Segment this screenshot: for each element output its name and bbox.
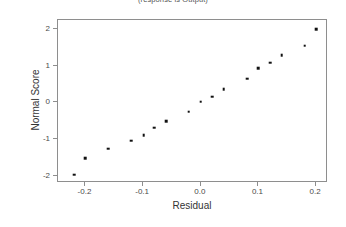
x-tick-mark (315, 182, 316, 186)
data-points-layer (58, 20, 326, 181)
normal-probability-plot: (response is Output) -0.2-0.10.00.10.2 -… (0, 0, 346, 227)
x-tick-label: 0.2 (310, 187, 321, 196)
x-tick-label: -0.2 (78, 187, 92, 196)
x-tick-mark (257, 182, 258, 186)
data-point (84, 157, 87, 160)
x-tick-mark (84, 182, 85, 186)
y-tick-mark (53, 175, 57, 176)
y-tick-mark (53, 65, 57, 66)
x-tick-label: 0.0 (194, 187, 205, 196)
data-point (130, 140, 133, 143)
data-point (303, 44, 306, 47)
plot-area (57, 19, 327, 182)
data-point (246, 77, 249, 80)
x-tick-label: -0.1 (135, 187, 149, 196)
data-point (187, 110, 190, 113)
y-tick-mark (53, 138, 57, 139)
data-point (269, 62, 272, 65)
y-tick-label: -1 (43, 134, 50, 143)
y-tick-mark (53, 28, 57, 29)
data-point (211, 95, 214, 98)
y-tick-mark (53, 101, 57, 102)
chart-title: (response is Output) (0, 0, 346, 4)
data-point (142, 134, 145, 137)
data-point (165, 120, 168, 123)
data-point (199, 100, 202, 103)
y-tick-label: 0 (46, 97, 50, 106)
y-tick-label: -2 (43, 170, 50, 179)
y-tick-label: 2 (46, 24, 50, 33)
data-point (107, 147, 110, 150)
x-axis-label: Residual (57, 200, 327, 211)
data-point (315, 28, 318, 31)
data-point (280, 54, 283, 57)
x-tick-mark (142, 182, 143, 186)
y-tick-label: 1 (46, 60, 50, 69)
x-tick-mark (200, 182, 201, 186)
x-tick-label: 0.1 (252, 187, 263, 196)
data-point (257, 67, 260, 70)
data-point (153, 126, 156, 129)
y-axis-label: Normal Score (30, 69, 41, 130)
data-point (223, 88, 226, 91)
data-point (73, 173, 76, 176)
